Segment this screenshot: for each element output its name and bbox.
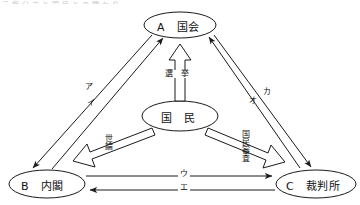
three-powers-diagram: 三権分立と国民との関わり A 国会 [0,0,360,205]
edge-line-a [33,35,152,168]
block-arrow-yoron [73,128,155,167]
diagram-canvas [0,0,360,205]
block-arrow-senkyo [169,44,191,101]
node-ellipse-saibansho [276,170,356,198]
node-ellipse-naikaku [9,170,85,198]
node-ellipse-kokkai [144,12,216,38]
block-arrow-kokumin-shinsa [205,128,285,168]
node-ellipse-kokumin [142,101,218,131]
edge-line-ka [214,35,311,167]
